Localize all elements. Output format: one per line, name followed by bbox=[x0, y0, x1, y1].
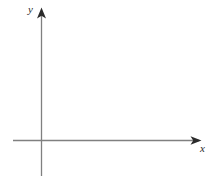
y-axis-label: y bbox=[28, 4, 33, 15]
coordinate-axes-figure: y x bbox=[0, 0, 214, 186]
axes-drawing bbox=[0, 0, 214, 186]
x-axis-label: x bbox=[200, 143, 205, 154]
figure-background bbox=[0, 0, 214, 186]
